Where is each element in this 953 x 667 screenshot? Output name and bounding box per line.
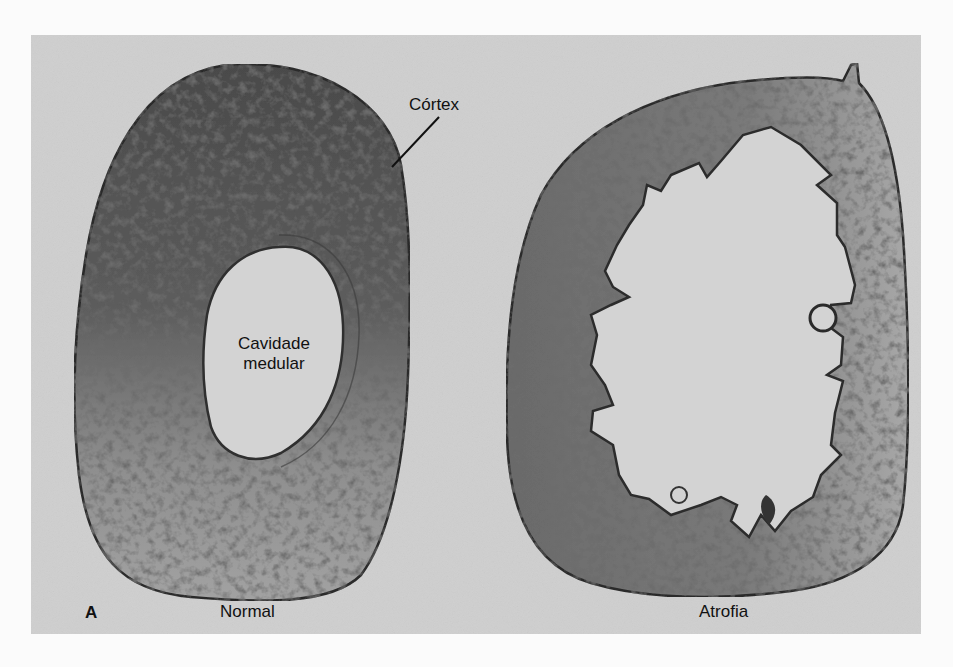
atrophy-caption: Atrofia — [699, 603, 748, 620]
medullary-cavity-label-line2: medular — [209, 354, 339, 374]
medullary-cavity-label-line1: Cavidade — [209, 334, 339, 354]
bone-cross-sections-illustration — [31, 35, 921, 634]
cortex-label: Córtex — [409, 96, 459, 113]
normal-caption: Normal — [220, 603, 275, 620]
figure-frame: Córtex Cavidade medular A Normal Atrofia — [31, 35, 921, 634]
panel-letter: A — [85, 604, 97, 621]
normal-bone-section — [74, 64, 409, 601]
medullary-cavity-label: Cavidade medular — [209, 334, 339, 374]
